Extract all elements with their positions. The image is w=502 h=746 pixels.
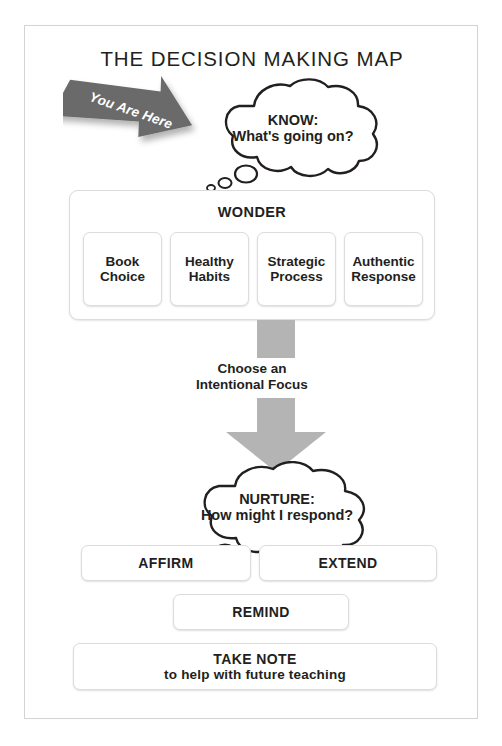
cloud-shape-icon <box>198 78 388 196</box>
wonder-cell-group: Book Choice Healthy Habits Strategic Pro… <box>83 232 423 306</box>
wonder-cell-strategic-process[interactable]: Strategic Process <box>257 232 336 306</box>
take-note-subtitle: to help with future teaching <box>164 667 346 683</box>
you-are-here-annotation: You Are Here <box>63 76 213 176</box>
wonder-cell-book-choice[interactable]: Book Choice <box>83 232 162 306</box>
action-box-remind[interactable]: REMIND <box>173 594 349 630</box>
action-box-take-note[interactable]: TAKE NOTE to help with future teaching <box>73 643 437 690</box>
page-title: THE DECISION MAKING MAP <box>25 47 479 71</box>
wonder-cell-healthy-habits[interactable]: Healthy Habits <box>170 232 249 306</box>
action-box-extend[interactable]: EXTEND <box>259 545 437 581</box>
take-note-title: TAKE NOTE <box>213 651 296 667</box>
wonder-panel: WONDER Book Choice Healthy Habits Strate… <box>69 190 435 320</box>
action-box-affirm[interactable]: AFFIRM <box>81 545 251 581</box>
you-are-here-arrow-icon <box>63 76 213 176</box>
diagram-canvas: THE DECISION MAKING MAP You Are Here <box>0 0 502 746</box>
know-thought-cloud: KNOW: What's going on? <box>198 78 388 196</box>
connector-stub <box>257 320 295 358</box>
wonder-cell-authentic-response[interactable]: Authentic Response <box>344 232 423 306</box>
diagram-frame: THE DECISION MAKING MAP You Are Here <box>24 25 478 719</box>
choose-focus-label: Choose an Intentional Focus <box>25 361 479 393</box>
wonder-title: WONDER <box>70 204 434 220</box>
